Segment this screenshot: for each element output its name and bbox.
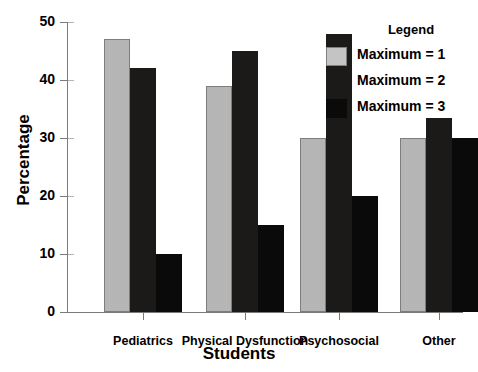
bar: [400, 138, 426, 312]
bar: [352, 196, 378, 312]
y-tick-mark-inner: [68, 80, 74, 81]
y-tick-mark: [60, 22, 67, 23]
x-tick-label: Other: [422, 334, 455, 348]
y-tick-mark-inner: [68, 254, 74, 255]
x-tick-mark: [245, 313, 246, 320]
legend-swatch: [326, 99, 347, 118]
bar: [452, 138, 478, 312]
y-tick-mark: [60, 80, 67, 81]
x-tick-mark: [439, 313, 440, 320]
legend-title: Legend: [356, 22, 466, 37]
bar: [156, 254, 182, 312]
y-axis-label: Percentage: [14, 90, 34, 230]
bar: [426, 118, 452, 312]
bar: [130, 68, 156, 312]
plot-area: 01020304050 PediatricsPhysical Dysfuncti…: [67, 22, 463, 312]
x-tick-label: Psychosocial: [299, 334, 379, 348]
y-axis-line: [67, 22, 68, 313]
y-tick-mark: [60, 138, 67, 139]
y-tick-label: 50: [25, 13, 55, 29]
bar: [232, 51, 258, 312]
y-tick-label: 40: [25, 71, 55, 87]
bar: [300, 138, 326, 312]
y-tick-mark: [60, 196, 67, 197]
y-tick-mark: [60, 312, 67, 313]
y-tick-label: 0: [25, 303, 55, 319]
y-tick-mark-inner: [68, 22, 74, 23]
y-tick-mark-inner: [68, 138, 74, 139]
bar: [104, 39, 130, 312]
y-tick-mark: [60, 254, 67, 255]
y-tick-label: 20: [25, 187, 55, 203]
x-tick-label: Physical Dysfunction: [182, 334, 308, 348]
legend-label: Maximum = 2: [357, 72, 445, 88]
bar: [258, 225, 284, 312]
y-tick-label: 30: [25, 129, 55, 145]
x-tick-mark: [339, 313, 340, 320]
x-tick-mark: [143, 313, 144, 320]
y-tick-label: 10: [25, 245, 55, 261]
bar: [206, 86, 232, 312]
legend-label: Maximum = 3: [357, 98, 445, 114]
legend-label: Maximum = 1: [357, 46, 445, 62]
x-tick-label: Pediatrics: [113, 334, 173, 348]
bar-chart-figure: Percentage Students 01020304050 Pediatri…: [0, 0, 478, 372]
x-axis-line: [67, 312, 463, 313]
legend-swatch: [326, 47, 347, 66]
legend-swatch: [326, 73, 347, 92]
y-tick-mark-inner: [68, 196, 74, 197]
